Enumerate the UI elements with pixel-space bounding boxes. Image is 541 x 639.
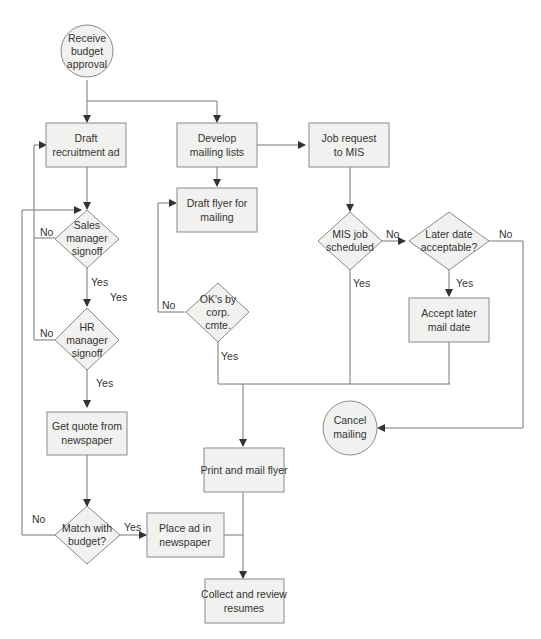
- place-ad-node: Place ad in newspaper: [147, 513, 224, 557]
- start-node: Receive budget approval: [61, 25, 113, 77]
- node-label: Cancel: [334, 414, 367, 426]
- get-quote-node: Get quote from newspaper: [47, 412, 127, 455]
- node-label: scheduled: [326, 241, 374, 253]
- node-label: mailing lists: [190, 146, 244, 158]
- node-label: Draft flyer for: [187, 197, 248, 209]
- later-date-decision: Later date acceptable?: [409, 212, 489, 270]
- edge-label-later-no: No: [499, 228, 513, 240]
- mis-job-scheduled-decision: MIS job scheduled: [318, 212, 382, 270]
- node-label: Place ad in: [159, 522, 211, 534]
- collect-resumes-node: Collect and review resumes: [201, 579, 287, 623]
- node-label: Job request: [322, 132, 377, 144]
- develop-mailing-lists-node: Develop mailing lists: [177, 123, 257, 167]
- flowchart: Receive budget approval Draft recruitmen…: [0, 0, 541, 639]
- node-label: newspaper: [61, 434, 113, 446]
- node-label: resumes: [224, 602, 264, 614]
- draft-flyer-node: Draft flyer for mailing: [177, 188, 257, 232]
- node-label: Match with: [62, 522, 112, 534]
- node-label: Receive: [68, 32, 106, 44]
- node-label: OK's by: [200, 293, 237, 305]
- node-label: signoff: [72, 347, 103, 359]
- node-label: recruitment ad: [52, 146, 119, 158]
- oks-corp-cmte-decision: OK's by corp. cmte.: [186, 283, 249, 342]
- edge-label-hr-no: No: [40, 327, 54, 339]
- node-label: to MIS: [334, 146, 364, 158]
- draft-recruitment-ad-node: Draft recruitment ad: [46, 123, 126, 167]
- node-label: Accept later: [421, 307, 477, 319]
- job-request-node: Job request to MIS: [309, 123, 389, 167]
- node-label: newspaper: [159, 536, 211, 548]
- edge-label-sales-no: No: [40, 226, 54, 238]
- node-label: Get quote from: [52, 420, 122, 432]
- edge-label-sales-yes: Yes: [91, 276, 108, 288]
- node-label: MIS job: [332, 228, 368, 240]
- node-label: mailing: [333, 428, 366, 440]
- print-mail-flyer-node: Print and mail flyer: [201, 448, 288, 492]
- node-label: corp.: [206, 306, 229, 318]
- edge-label-sales-yes-extra: Yes: [110, 291, 127, 303]
- node-label: manager: [66, 334, 108, 346]
- node-label: cmte.: [205, 319, 231, 331]
- node-label: HR: [79, 321, 95, 333]
- edge-label-hr-yes: Yes: [96, 377, 113, 389]
- node-label: Collect and review: [201, 588, 287, 600]
- node-label: budget?: [68, 535, 106, 547]
- node-label: Later date: [425, 228, 472, 240]
- node-label: budget: [71, 45, 103, 57]
- node-label: Develop: [198, 132, 237, 144]
- match-budget-decision: Match with budget?: [55, 506, 120, 564]
- node-label: mail date: [428, 321, 471, 333]
- node-label: Sales: [74, 219, 100, 231]
- node-label: Print and mail flyer: [201, 464, 288, 476]
- sales-signoff-decision: Sales manager signoff: [55, 210, 119, 268]
- node-label: mailing: [200, 211, 233, 223]
- node-label: acceptable?: [421, 241, 478, 253]
- edge-label-match-yes: Yes: [124, 521, 141, 533]
- edge-label-oks-no: No: [162, 299, 176, 311]
- node-label: signoff: [72, 245, 103, 257]
- cancel-mailing-node: Cancel mailing: [323, 401, 377, 455]
- edge-label-later-yes: Yes: [456, 277, 473, 289]
- node-label: Draft: [75, 132, 98, 144]
- accept-later-date-node: Accept later mail date: [409, 298, 489, 342]
- edge-label-mis-yes: Yes: [353, 277, 370, 289]
- edge-label-mis-no: No: [386, 228, 400, 240]
- edge-label-match-no: No: [32, 513, 46, 525]
- edge-label-oks-yes: Yes: [221, 350, 238, 362]
- hr-signoff-decision: HR manager signoff: [55, 308, 119, 370]
- node-label: approval: [67, 58, 107, 70]
- node-label: manager: [66, 232, 108, 244]
